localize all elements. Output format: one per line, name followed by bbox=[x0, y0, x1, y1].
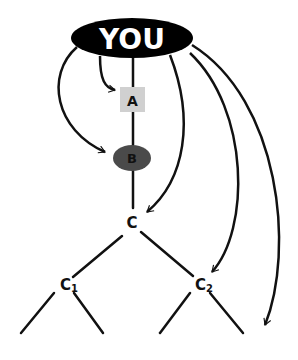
node-a: A bbox=[120, 87, 145, 112]
node-a-label: A bbox=[127, 93, 138, 109]
node-c2-subscript: 2 bbox=[206, 283, 213, 294]
hierarchy-diagram: YOU A B C C 1 C 2 bbox=[0, 0, 298, 360]
node-c-label: C bbox=[126, 214, 137, 232]
node-c2: C 2 bbox=[195, 276, 213, 294]
node-you-label: YOU bbox=[98, 23, 165, 56]
node-c1: C 1 bbox=[60, 276, 78, 294]
node-b-label: B bbox=[127, 151, 137, 166]
node-c1-subscript: 1 bbox=[71, 283, 78, 294]
direct-arrows bbox=[59, 45, 279, 325]
node-c1-label: C bbox=[60, 276, 71, 294]
node-you: YOU bbox=[71, 18, 193, 58]
node-b: B bbox=[113, 145, 151, 171]
node-c2-label: C bbox=[195, 276, 206, 294]
